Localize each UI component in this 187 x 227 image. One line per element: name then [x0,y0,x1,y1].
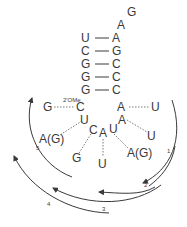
nucleotide-u-bottom: U [98,157,107,171]
stem-pair: U A [81,31,120,45]
nucleotide-ag-left: A(G) [39,132,64,146]
rna-secondary-structure-diagram: G A U A C G G C G C G C 2'OMe [0,0,187,227]
nucleotide-c-inner: C [89,123,98,137]
nucleotide-g-left: G [43,100,52,114]
stem-pair: G C [81,57,121,71]
nucleotide-g-top: G [127,5,136,19]
stem-pair: G C [81,83,121,97]
nucleotide-g-bottom: G [72,151,81,165]
stem-pair: C G [81,44,121,58]
stem-pair: G C [81,70,121,84]
nucleotide-c-2ome: C [76,100,85,114]
nucleotide-u-far-right: U [151,100,160,114]
arrow-label-2: 2 [144,182,148,188]
nucleotide-a-center: A [99,126,107,140]
hairpin-loop-top: G A [117,5,136,32]
stem-left-nt: U [81,31,90,45]
nucleotide-a-right: A [117,100,125,114]
nucleotide-ag-right: A(G) [127,146,152,160]
nucleotide-a-inner-right: A [118,113,126,127]
stem-left-nt: G [81,57,90,71]
arrow-label-3: 3 [102,206,106,212]
nucleotide-u-inner-left: U [80,113,89,127]
arrow-label-4: 4 [47,201,51,207]
nucleotide-u-inner-right: U [109,122,118,136]
nucleotide-a-top: A [117,18,125,32]
stem-left-nt: G [81,70,90,84]
stem-right-nt: C [112,57,121,71]
arrow-label-1: 1 [167,148,171,154]
loop-nucleotides: G C A U U C A U A A(G) U A(G) G U [39,100,160,171]
stem: U A C G G C G C G C [81,31,121,97]
stem-left-nt: C [81,44,90,58]
stem-right-nt: C [112,83,121,97]
arrow-4 [14,156,109,213]
nucleotide-u-right: U [147,129,156,143]
stem-right-nt: C [112,70,121,84]
stem-right-nt: G [112,44,121,58]
arrow-1-inner-line [149,146,175,186]
stem-right-nt: A [112,31,120,45]
stem-left-nt: G [81,83,90,97]
